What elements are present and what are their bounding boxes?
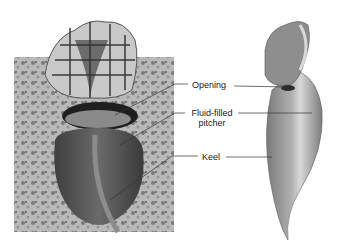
label-opening: Opening <box>192 80 226 90</box>
pitcher-plant-figure: Opening Fluid-filled pitcher Keel <box>0 0 338 249</box>
label-fluid-filled-pitcher: Fluid-filled pitcher <box>186 108 238 128</box>
illustration-panel <box>265 22 322 241</box>
photo-panel <box>14 21 174 232</box>
figure-graphics <box>0 0 338 249</box>
label-fluid-line2: pitcher <box>186 118 238 128</box>
label-keel: Keel <box>202 152 220 162</box>
label-fluid-line1: Fluid-filled <box>186 108 238 118</box>
